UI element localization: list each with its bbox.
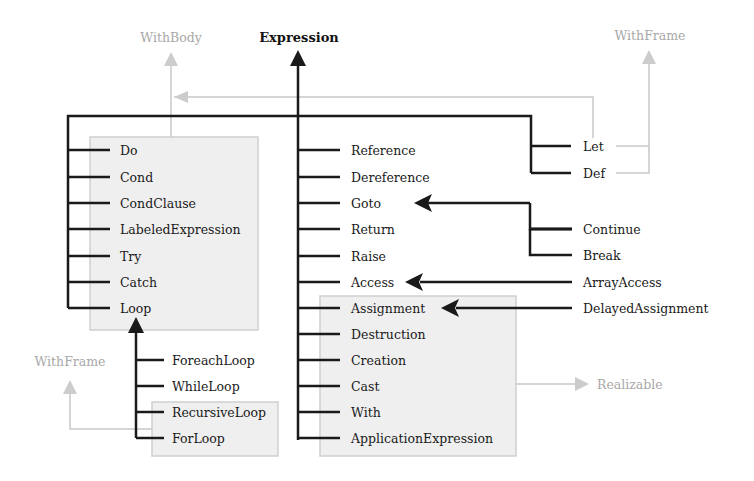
class-label: CondClause bbox=[120, 196, 196, 211]
withframe-right-label: WithFrame bbox=[614, 28, 685, 43]
class-label: Try bbox=[120, 249, 142, 264]
class-label: Do bbox=[120, 143, 138, 158]
class-label: LabeledExpression bbox=[120, 222, 241, 237]
class-label: WhileLoop bbox=[172, 379, 240, 394]
class-label: ForLoop bbox=[172, 431, 225, 446]
class-label: Reference bbox=[351, 143, 416, 158]
frame-group-labels: Let Def bbox=[583, 139, 606, 181]
expression-label: Expression bbox=[259, 30, 339, 45]
realizable-arrowhead bbox=[575, 377, 589, 391]
class-label: Access bbox=[350, 275, 394, 290]
class-label: ForeachLoop bbox=[172, 353, 255, 368]
class-label: Cast bbox=[351, 379, 379, 394]
class-label: Loop bbox=[120, 301, 151, 316]
class-label: Dereference bbox=[351, 170, 430, 185]
class-label: Break bbox=[583, 248, 621, 263]
right-children-labels: Continue Break ArrayAccess DelayedAssign… bbox=[582, 222, 709, 316]
withbody-arrowhead bbox=[164, 52, 178, 66]
def-withframe-edge bbox=[616, 58, 649, 173]
class-label: Assignment bbox=[350, 301, 425, 316]
class-label: Let bbox=[583, 139, 604, 154]
class-label: Raise bbox=[351, 249, 386, 264]
class-label: Destruction bbox=[351, 327, 425, 342]
expression-arrowhead bbox=[290, 50, 306, 66]
class-label: ArrayAccess bbox=[582, 275, 662, 290]
withframe-left-arrowhead bbox=[63, 380, 77, 394]
class-label: Continue bbox=[583, 222, 641, 237]
class-label: Goto bbox=[351, 196, 381, 211]
class-label: ApplicationExpression bbox=[350, 431, 493, 446]
withbody-label: WithBody bbox=[140, 30, 202, 45]
withframe-left-edge bbox=[70, 388, 152, 429]
let-to-withbody-arrowhead bbox=[174, 91, 188, 103]
class-label: Cond bbox=[120, 170, 153, 185]
withframe-left-label: WithFrame bbox=[34, 354, 105, 369]
class-label: DelayedAssignment bbox=[583, 301, 709, 316]
class-label: With bbox=[351, 405, 381, 420]
class-label: Creation bbox=[351, 353, 406, 368]
class-label: RecursiveLoop bbox=[172, 405, 266, 420]
class-label: Def bbox=[583, 166, 606, 181]
withframe-right-arrowhead bbox=[642, 50, 656, 64]
realizable-label: Realizable bbox=[597, 377, 663, 392]
class-label: Catch bbox=[120, 275, 157, 290]
class-hierarchy-diagram: Expression WithBody WithFrame WithFrame … bbox=[0, 0, 754, 481]
middle-group-labels: Reference Dereference Goto Return Raise … bbox=[350, 143, 430, 290]
class-label: Return bbox=[351, 222, 395, 237]
